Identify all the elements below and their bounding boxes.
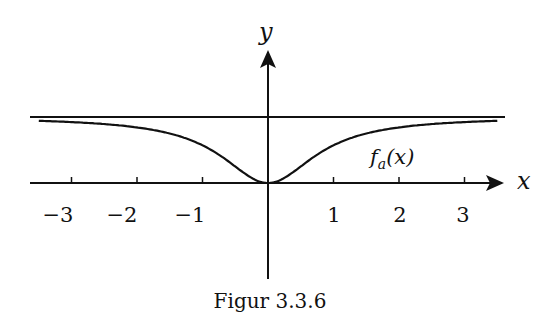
x-tick-label: 2: [393, 203, 406, 227]
curve-label: fa(x): [370, 145, 414, 172]
x-tick-label: −2: [107, 203, 138, 227]
x-tick-label: 3: [456, 203, 469, 227]
x-tick-label: −3: [43, 203, 74, 227]
figure-caption: Figur 3.3.6: [214, 289, 327, 313]
y-axis-label: y: [259, 18, 273, 46]
x-axis-label: x: [517, 167, 531, 195]
figure: y x fa(x) −3 −2 −1 1 2 3 Figur 3.3.6: [0, 0, 560, 319]
x-tick-label: 1: [327, 203, 340, 227]
x-tick-label: −1: [175, 203, 206, 227]
plot-canvas: [0, 0, 560, 319]
